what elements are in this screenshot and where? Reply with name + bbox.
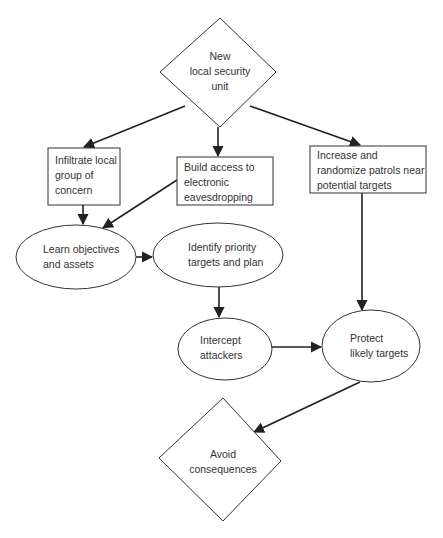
label-line: randomize patrols near	[317, 163, 424, 178]
label-line: and assets	[43, 257, 119, 272]
label-line: New	[170, 49, 270, 64]
edge-new-to-infiltrate	[84, 106, 185, 147]
node-infiltrate-label: Infiltrate local group of concern	[55, 153, 117, 198]
label-line: electronic	[184, 175, 255, 190]
label-line: group of	[55, 168, 117, 183]
label-line: likely targets	[350, 346, 408, 361]
label-line: eavesdropping	[184, 190, 255, 205]
node-build-access-label: Build access to electronic eavesdropping	[184, 160, 255, 205]
node-identify-label: Identify priority targets and plan	[188, 240, 263, 270]
label-line: Intercept	[200, 333, 243, 348]
label-line: concern	[55, 183, 117, 198]
label-line: targets and plan	[188, 255, 263, 270]
label-line: Learn objectives	[43, 242, 119, 257]
node-intercept-label: Intercept attackers	[200, 333, 243, 363]
label-line: Avoid	[173, 447, 273, 462]
label-line: local security	[170, 64, 270, 79]
label-line: unit	[170, 79, 270, 94]
edge-new-to-increase	[250, 106, 360, 145]
label-line: attackers	[200, 348, 243, 363]
label-line: Infiltrate local	[55, 153, 117, 168]
label-line: Increase and	[317, 148, 424, 163]
label-line: Identify priority	[188, 240, 263, 255]
label-line: Build access to	[184, 160, 255, 175]
node-increase-patrols-label: Increase and randomize patrols near pote…	[317, 148, 424, 193]
node-protect-label: Protect likely targets	[350, 331, 408, 361]
node-learn-label: Learn objectives and assets	[43, 242, 119, 272]
label-line: Protect	[350, 331, 408, 346]
edge-protect-to-avoid	[254, 382, 360, 432]
label-line: consequences	[173, 462, 273, 477]
node-new-unit-label: New local security unit	[170, 49, 270, 94]
node-avoid-label: Avoid consequences	[173, 447, 273, 477]
label-line: potential targets	[317, 178, 424, 193]
